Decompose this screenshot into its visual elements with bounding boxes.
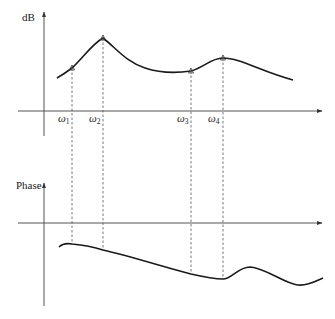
phase-curve [59,244,323,286]
magnitude-curve [57,38,293,80]
omega2-label: ω2 [89,112,101,126]
omega3-label: ω3 [177,112,189,126]
bode-diagram: dB ω1 ω2 ω3 ω4 Phase [0,0,335,319]
bode-diagram-svg: dB ω1 ω2 ω3 ω4 Phase [0,0,335,319]
magnitude-y-axis-label: dB [22,11,35,23]
phase-plot: Phase [16,179,323,306]
phase-y-axis-label: Phase [16,179,42,191]
magnitude-plot: dB ω1 ω2 ω3 ω4 [18,11,322,279]
omega4-label: ω4 [208,112,220,126]
omega1-label: ω1 [58,112,70,126]
